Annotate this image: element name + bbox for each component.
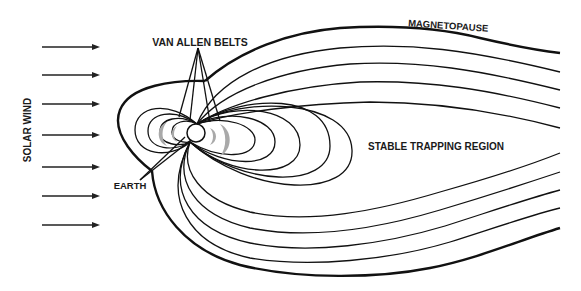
earth-label: EARTH [114, 180, 147, 191]
magnetosphere-diagram: SOLAR WIND [0, 0, 581, 291]
earth-icon [187, 124, 205, 142]
arrow-icon [42, 72, 100, 78]
outer-belt-night [220, 124, 230, 156]
solar-wind-arrows [42, 44, 100, 228]
solar-wind-label: SOLAR WIND [22, 98, 33, 162]
inner-belt-night [210, 128, 216, 145]
closed-field-lines [135, 103, 352, 185]
upper-tail-field-lines [197, 46, 560, 128]
lower-tail-field-lines [178, 142, 560, 262]
arrow-icon [42, 164, 100, 170]
stable-trapping-region-label: STABLE TRAPPING REGION [368, 141, 504, 152]
arrow-icon [42, 132, 100, 138]
van-allen-belts-label: VAN ALLEN BELTS [152, 36, 247, 48]
arrow-icon [42, 101, 100, 107]
arrow-icon [42, 222, 100, 228]
magnetopause-top [205, 27, 560, 81]
arrow-icon [42, 193, 100, 199]
van-allen-pointer-lines [179, 48, 220, 122]
arrow-icon [42, 44, 100, 50]
